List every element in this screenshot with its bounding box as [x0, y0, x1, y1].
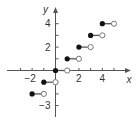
closed-dot-icon [29, 91, 34, 96]
x-tick-label: 2 [76, 73, 82, 84]
step-segments [29, 21, 116, 96]
open-dot-icon [88, 45, 93, 50]
x-axis-arrow-icon [125, 68, 131, 73]
step-segment [100, 21, 117, 26]
y-axis-label: y [42, 4, 49, 15]
y-tick-label: −3 [39, 100, 51, 111]
step-segment [88, 33, 105, 38]
step-function-chart: −22442−3xy [0, 0, 139, 128]
open-dot-icon [100, 33, 105, 38]
open-dot-icon [111, 21, 116, 26]
closed-dot-icon [76, 45, 81, 50]
step-segment [29, 91, 46, 96]
open-dot-icon [76, 56, 81, 61]
open-dot-icon [41, 91, 46, 96]
closed-dot-icon [41, 80, 46, 85]
closed-dot-icon [65, 56, 70, 61]
plot-area: −22442−3xy [0, 0, 139, 128]
x-tick-label: 4 [100, 73, 106, 84]
open-dot-icon [65, 68, 70, 73]
step-segment [53, 68, 70, 73]
step-segment [65, 56, 82, 61]
y-tick-label: 4 [45, 18, 51, 29]
closed-dot-icon [100, 21, 105, 26]
x-tick-label: −2 [24, 73, 36, 84]
closed-dot-icon [53, 68, 58, 73]
x-axis-label: x [126, 74, 133, 85]
step-segment [76, 45, 93, 50]
y-axis-arrow-icon [53, 7, 58, 13]
y-tick-label: 2 [45, 42, 51, 53]
closed-dot-icon [88, 33, 93, 38]
open-dot-icon [53, 80, 58, 85]
step-segment [41, 80, 58, 85]
